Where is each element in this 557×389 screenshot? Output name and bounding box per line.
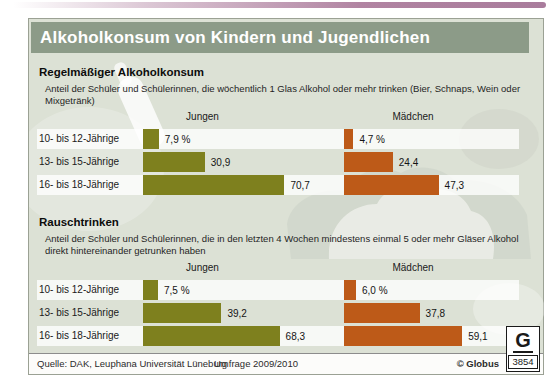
boys-value: 7,9 % — [165, 134, 191, 145]
chart2-row-10-12: 10- bis 12-Jährige 7,5 % 6,0 % — [37, 280, 519, 300]
boys-bar — [143, 326, 280, 346]
girls-bar — [344, 152, 393, 172]
page-title: Alkoholkonsum von Kindern und Jugendlich… — [31, 22, 529, 53]
section1-heading: Regelmäßiger Alkoholkonsum — [39, 66, 204, 78]
girls-bar — [344, 175, 439, 195]
girls-bar — [344, 129, 353, 149]
boys-bar-group: 68,3 — [143, 326, 305, 346]
boys-bar — [143, 175, 284, 195]
boys-value: 30,9 — [211, 157, 230, 168]
infographic-card: Alkoholkonsum von Kindern und Jugendlich… — [28, 18, 544, 375]
copyright-text: © Globus — [457, 354, 499, 374]
boys-bar-group: 7,5 % — [143, 280, 190, 300]
survey-text: Umfrage 2009/2010 — [214, 354, 298, 374]
girls-bar — [344, 303, 420, 323]
girls-value: 4,7 % — [359, 134, 385, 145]
section2-heading: Rauschtrinken — [39, 216, 119, 228]
row-label: 13- bis 15-Jährige — [39, 303, 141, 323]
globus-number: 3854 — [508, 355, 538, 369]
section1-subtitle: Anteil der Schüler und Schülerinnen, die… — [45, 83, 527, 106]
girls-bar-group: 59,1 — [344, 326, 488, 346]
girls-value: 24,4 — [399, 157, 418, 168]
girls-bar-group: 4,7 % — [344, 129, 385, 149]
section2-subtitle: Anteil der Schüler und Schülerinnen, die… — [45, 233, 527, 256]
girls-value: 6,0 % — [362, 285, 388, 296]
boys-bar-group: 7,9 % — [143, 129, 190, 149]
row-label: 10- bis 12-Jährige — [39, 280, 141, 300]
boys-bar-group: 39,2 — [143, 303, 247, 323]
footer: Quelle: DAK, Leuphana Universität Lünebu… — [29, 353, 543, 374]
section2-column-header-boys: Jungen — [160, 262, 245, 273]
boys-bar — [143, 303, 221, 323]
row-label: 10- bis 12-Jährige — [39, 129, 141, 149]
girls-bar-group: 47,3 — [344, 175, 464, 195]
boys-value: 68,3 — [286, 331, 305, 342]
girls-bar-group: 6,0 % — [344, 280, 388, 300]
girls-bar-group: 37,8 — [344, 303, 445, 323]
section1-column-header-girls: Mädchen — [370, 111, 456, 122]
boys-value: 7,5 % — [164, 285, 190, 296]
page-accent-strip — [13, 2, 546, 8]
chart1-row-13-15: 13- bis 15-Jährige 30,9 24,4 — [37, 152, 519, 172]
girls-value: 47,3 — [445, 180, 464, 191]
row-label: 16- bis 18-Jährige — [39, 326, 141, 346]
chart2-row-13-15: 13- bis 15-Jährige 39,2 37,8 — [37, 303, 519, 323]
girls-bar-group: 24,4 — [344, 152, 418, 172]
boys-bar — [143, 280, 158, 300]
girls-bar — [344, 280, 356, 300]
section1-column-header-boys: Jungen — [160, 111, 245, 122]
boys-bar-group: 30,9 — [143, 152, 230, 172]
section2-column-header-girls: Mädchen — [370, 262, 456, 273]
source-text: Quelle: DAK, Leuphana Universität Lünebu… — [37, 354, 227, 374]
girls-value: 59,1 — [468, 331, 487, 342]
boys-bar-group: 70,7 — [143, 175, 310, 195]
girls-bar — [344, 326, 462, 346]
infographic-page: Alkoholkonsum von Kindern und Jugendlich… — [0, 0, 557, 389]
row-label: 16- bis 18-Jährige — [39, 175, 141, 195]
chart1-row-10-12: 10- bis 12-Jährige 7,9 % 4,7 % — [37, 129, 519, 149]
girls-value: 37,8 — [426, 308, 445, 319]
boys-bar — [143, 129, 159, 149]
globus-g-icon: G — [513, 330, 533, 353]
boys-bar — [143, 152, 205, 172]
boys-value: 39,2 — [227, 308, 246, 319]
globus-logo: G 3854 — [506, 326, 540, 372]
row-label: 13- bis 15-Jährige — [39, 152, 141, 172]
boys-value: 70,7 — [290, 180, 309, 191]
chart2-row-16-18: 16- bis 18-Jährige 68,3 59,1 — [37, 326, 519, 346]
chart1-row-16-18: 16- bis 18-Jährige 70,7 47,3 — [37, 175, 519, 195]
